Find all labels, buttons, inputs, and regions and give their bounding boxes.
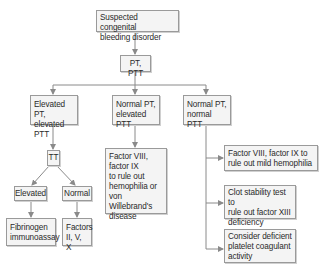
node-tt-normal: Normal [62,186,92,201]
node-mild-hemophilia: Factor VIII, factor IX to rule out mild … [224,145,318,171]
node-normal-pt-normal-ptt: Normal PT, normal PTT [183,95,231,125]
node-fibrinogen-immunoassay: Fibrinogen immunoassay [6,218,56,246]
node-elevated-pt-elevated-ptt: Elevated PT, elevated PTT [30,95,78,125]
arrow-tt-to-elevated [32,166,49,185]
node-root: Suspected congenital bleeding disorder [96,10,179,32]
node-normal-pt-elevated-ptt: Normal PT, elevated PTT [112,95,160,125]
node-clot-stability: Clot stability test to rule out factor X… [224,185,296,219]
arrow-tt-to-normal [57,166,75,185]
node-factors-ii-v-x: Factors II, V, X [62,218,92,246]
node-pt-ptt: PT, PTT [120,55,151,72]
node-platelet-coagulant: Consider deficient platelet coagulant ac… [224,229,296,263]
node-tt-elevated: Elevated [14,186,47,201]
node-tt: TT [47,150,60,166]
node-factor-viii-ix-hemophilia-vwd: Factor VIII, factor IX to rule out hemop… [105,148,167,214]
